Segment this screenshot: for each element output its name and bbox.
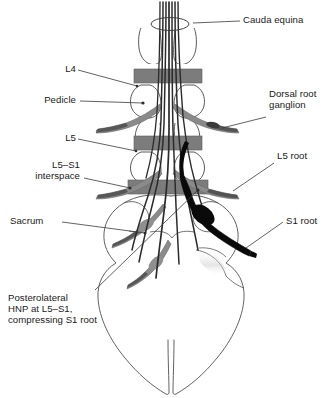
label-l5-s1-interspace-line1: L5–S1 <box>6 159 80 171</box>
leader-l4 <box>78 70 137 86</box>
label-l5: L5 <box>24 132 76 144</box>
lumbosacral-spine-diagram <box>0 0 335 398</box>
leader-dorsal-root-ganglion <box>222 117 266 128</box>
leader-l5 <box>78 139 136 151</box>
cauda-equina-marker <box>151 18 189 31</box>
label-sacrum: Sacrum <box>10 215 43 227</box>
label-pedicle: Pedicle <box>6 94 76 106</box>
leader-l5-s1-interspace <box>84 178 130 188</box>
label-hnp-line3: compressing S1 root <box>8 314 97 326</box>
disc-l4 <box>134 69 202 83</box>
label-hnp-line2: HNP at L5–S1, <box>8 303 72 315</box>
dot-l4 <box>136 85 139 88</box>
dot-pedicle <box>141 101 144 104</box>
dot-l5 <box>135 150 138 153</box>
leader-s1-root <box>246 222 283 248</box>
label-cauda-equina: Cauda equina <box>243 14 303 26</box>
leader-sacrum <box>62 222 145 233</box>
label-dorsal-root-ganglion-line2: ganglion <box>269 99 306 111</box>
label-hnp-line1: Posterolateral <box>8 292 68 304</box>
sacrum-outline <box>98 195 244 395</box>
label-l5-root: L5 root <box>277 150 307 162</box>
dot-l5-s1 <box>129 187 132 190</box>
dot-sacrum <box>144 232 147 235</box>
leader-l5-root <box>233 163 274 191</box>
dot-hnp <box>197 189 200 192</box>
label-s1-root: S1 root <box>286 215 317 227</box>
label-l5-s1-interspace-line2: interspace <box>6 170 80 182</box>
label-l4: L4 <box>24 63 76 75</box>
label-dorsal-root-ganglion-line1: Dorsal root <box>269 88 316 100</box>
leader-cauda-equina <box>193 21 240 23</box>
